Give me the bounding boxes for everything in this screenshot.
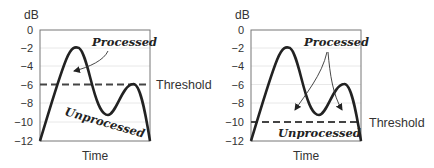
tick-m4: −4 [20, 60, 33, 72]
y-axis-label: dB [24, 8, 39, 22]
x-axis-label: Time [293, 149, 320, 163]
y-ticks: 0 −2 −4 −6 −8 −10 −12 [14, 24, 33, 147]
processed-arrow-left-icon [295, 52, 327, 110]
unprocessed-label: Unprocessed [278, 126, 361, 140]
processed-label: Processed [303, 35, 369, 49]
tick-m12: −12 [225, 135, 244, 147]
tick-m8: −8 [20, 97, 33, 109]
tick-m12: −12 [14, 135, 33, 147]
tick-m10: −10 [14, 116, 33, 128]
tick-m8: −8 [231, 97, 244, 109]
tick-m10: −10 [225, 116, 244, 128]
tick-m2: −2 [20, 42, 33, 54]
tick-0: 0 [27, 24, 33, 36]
compression-threshold-diagram: dB 0 −2 −4 −6 −8 −10 −12 Threshold Proce… [0, 0, 434, 168]
tick-m4: −4 [231, 60, 244, 72]
processed-arrow-icon [74, 51, 108, 71]
left-chart: dB 0 −2 −4 −6 −8 −10 −12 Threshold Proce… [14, 8, 211, 163]
processed-label: Processed [91, 35, 157, 49]
tick-m6: −6 [20, 79, 33, 91]
threshold-label: Threshold [156, 78, 212, 92]
tick-0: 0 [238, 24, 244, 36]
x-axis-label: Time [82, 149, 109, 163]
tick-m6: −6 [231, 79, 244, 91]
threshold-label: Threshold [369, 116, 425, 130]
right-chart: dB 0 −2 −4 −6 −8 −10 −12 Threshold Proce… [225, 8, 424, 163]
unprocessed-label: Unprocessed [63, 104, 146, 140]
y-ticks: 0 −2 −4 −6 −8 −10 −12 [225, 24, 244, 147]
y-axis-label: dB [235, 8, 250, 22]
tick-m2: −2 [231, 42, 244, 54]
